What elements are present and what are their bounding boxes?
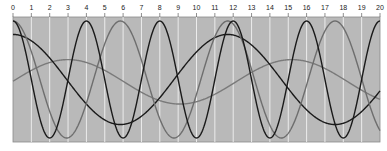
x-tick-label: 12: [229, 4, 237, 11]
x-tick-label: 11: [211, 4, 218, 11]
x-tick-label: 17: [321, 4, 329, 11]
x-tick-label: 5: [103, 4, 107, 11]
x-tick-label: 2: [48, 4, 52, 11]
x-tick-label: 16: [303, 4, 311, 11]
x-tick-label: 3: [66, 4, 70, 11]
x-tick-label: 1: [29, 4, 33, 11]
x-tick-label: 7: [139, 4, 143, 11]
x-tick-label: 20: [376, 4, 384, 11]
chart: 01234567891011121314151617181920: [0, 0, 387, 151]
x-tick-label: 6: [121, 4, 125, 11]
x-tick-label: 15: [284, 4, 292, 11]
x-tick-label: 9: [176, 4, 180, 11]
x-tick-label: 19: [358, 4, 366, 11]
x-tick-label: 0: [11, 4, 15, 11]
x-tick-label: 8: [158, 4, 162, 11]
x-tick-label: 14: [266, 4, 274, 11]
x-tick-label: 10: [193, 4, 201, 11]
x-tick-label: 4: [84, 4, 88, 11]
x-axis-tick-labels: 01234567891011121314151617181920: [11, 4, 384, 17]
x-tick-label: 18: [339, 4, 347, 11]
x-tick-label: 13: [248, 4, 256, 11]
